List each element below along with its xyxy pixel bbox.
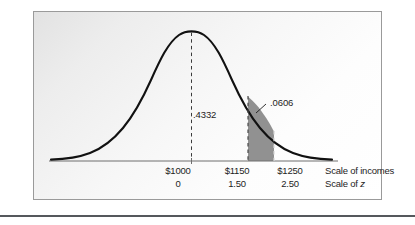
tick-label-z-1: 1.50 (210, 177, 264, 190)
bottom-horizontal-rule (0, 215, 415, 217)
scale-legend-z-symbol: z (360, 178, 365, 189)
tick-label-z-0: 0 (151, 177, 205, 190)
scale-legend-z-prefix: Scale of (325, 178, 360, 189)
scale-legend-z: Scale of z (325, 177, 365, 190)
normal-distribution-figure: .4332 .0606 $1000 $1150 $1250 Scale of i… (0, 0, 415, 225)
center-area-label: .4332 (193, 109, 216, 120)
tick-label-income-1: $1150 (210, 164, 264, 177)
tick-label-z-2: 2.50 (263, 177, 317, 190)
tail-area-label: .0606 (270, 97, 293, 108)
scale-legend-incomes: Scale of incomes (325, 164, 394, 177)
axis-row-incomes: $1000 $1150 $1250 Scale of incomes (34, 164, 383, 177)
chart-panel: .4332 .0606 $1000 $1150 $1250 Scale of i… (33, 11, 382, 200)
axis-label-block: $1000 $1150 $1250 Scale of incomes 0 1.5… (34, 163, 383, 201)
axis-row-z: 0 1.50 2.50 Scale of z (34, 177, 383, 190)
tick-label-income-2: $1250 (263, 164, 317, 177)
tick-label-income-0: $1000 (151, 164, 205, 177)
